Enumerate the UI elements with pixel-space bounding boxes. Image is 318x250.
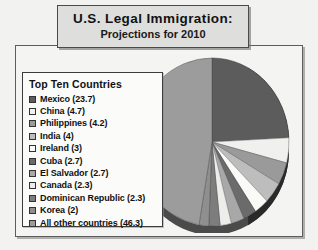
pie-chart-svg (150, 48, 310, 233)
legend-item-label: All other countries (46.3) (40, 218, 143, 229)
legend-swatch-icon (29, 182, 36, 189)
legend-item-label: India (4) (40, 131, 74, 142)
legend-swatch-icon (29, 158, 36, 165)
pie-chart (150, 48, 310, 233)
page-subtitle: Projections for 2010 (58, 27, 248, 41)
legend-swatch-icon (29, 96, 36, 103)
legend-item-label: Korea (2) (40, 205, 78, 216)
legend-item: China (4.7) (29, 105, 162, 117)
legend-item: Philippines (4.2) (29, 118, 162, 130)
legend-swatch-icon (29, 108, 36, 115)
legend-swatch-icon (29, 195, 36, 202)
legend-swatch-icon (29, 145, 36, 152)
legend-swatch-icon (29, 133, 36, 140)
legend-item-label: El Salvador (2.7) (40, 168, 108, 179)
legend-item: All other countries (46.3) (29, 217, 162, 229)
legend-item-label: Philippines (4.2) (40, 118, 107, 129)
legend-item: Cuba (2.7) (29, 155, 162, 167)
legend-item-label: Mexico (23.7) (40, 94, 95, 105)
legend-item: Ireland (3) (29, 143, 162, 155)
legend-item: Korea (2) (29, 205, 162, 217)
legend-item-label: Dominican Republic (2.3) (40, 193, 145, 204)
legend-item: Dominican Republic (2.3) (29, 192, 162, 204)
legend-item-label: Cuba (2.7) (40, 156, 83, 167)
legend-item-list: Mexico (23.7)China (4.7)Philippines (4.2… (29, 93, 162, 229)
legend-item-label: Canada (2.3) (40, 180, 92, 191)
legend-swatch-icon (29, 120, 36, 127)
pie-slice (212, 58, 289, 142)
legend: Top Ten Countries Mexico (23.7)China (4.… (22, 72, 163, 227)
legend-item: Canada (2.3) (29, 180, 162, 192)
legend-item-label: Ireland (3) (40, 143, 82, 154)
legend-swatch-icon (29, 170, 36, 177)
legend-item: El Salvador (2.7) (29, 167, 162, 179)
legend-item: Mexico (23.7) (29, 93, 162, 105)
page-title: U.S. Legal Immigration: (58, 11, 248, 26)
legend-title: Top Ten Countries (29, 78, 162, 91)
chart-title-box: U.S. Legal Immigration: Projections for … (57, 5, 249, 48)
legend-item-label: China (4.7) (40, 106, 85, 117)
legend-swatch-icon (29, 220, 36, 227)
legend-swatch-icon (29, 207, 36, 214)
legend-item: India (4) (29, 130, 162, 142)
